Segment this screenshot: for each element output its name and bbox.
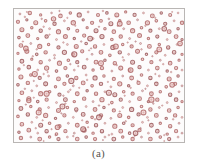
particle: [181, 101, 183, 103]
particle: [147, 69, 149, 71]
particle: [85, 42, 88, 45]
particle: [125, 121, 127, 123]
particle: [23, 64, 24, 65]
particle: [94, 119, 96, 121]
particle: [67, 122, 69, 124]
particle: [59, 10, 60, 11]
particle: [110, 86, 112, 88]
particle: [164, 134, 165, 135]
particle: [165, 86, 168, 89]
particle-core: [27, 114, 28, 115]
particle-core: [73, 53, 75, 55]
particle: [91, 85, 94, 88]
particle-core: [40, 61, 41, 62]
particle: [123, 28, 125, 30]
particle: [18, 36, 21, 39]
particle-core: [82, 114, 84, 116]
particle: [73, 100, 75, 102]
particle-scatter-plot: [14, 9, 184, 142]
particle: [61, 113, 62, 114]
particle: [87, 127, 88, 128]
particle: [181, 116, 183, 118]
particle: [155, 20, 158, 23]
particle: [78, 65, 79, 66]
particle-core: [60, 15, 62, 17]
particle: [107, 81, 108, 82]
particle: [65, 103, 67, 105]
particle: [141, 49, 143, 51]
particle-core: [53, 18, 55, 20]
particle: [37, 69, 39, 71]
particle-core: [94, 77, 96, 79]
particle-core: [158, 48, 160, 50]
particle: [111, 133, 113, 135]
particle: [24, 88, 26, 90]
particle: [122, 90, 125, 93]
particle: [36, 85, 38, 87]
particle: [98, 105, 100, 107]
particle-core: [181, 22, 182, 23]
particle-core: [17, 21, 18, 22]
particle-core: [114, 94, 116, 96]
particle-core: [61, 106, 63, 108]
particle: [33, 80, 34, 81]
particle-core: [138, 114, 139, 115]
particle: [170, 71, 172, 73]
particle: [36, 49, 38, 51]
particle-core: [46, 67, 48, 69]
particle: [54, 117, 56, 119]
particle: [122, 136, 124, 138]
particle-core: [27, 82, 28, 83]
particle-core: [130, 69, 132, 71]
particle: [153, 103, 155, 105]
particle-core: [175, 36, 177, 38]
particle: [18, 68, 20, 70]
particle-core: [21, 123, 23, 125]
particle-core: [34, 73, 36, 75]
particle: [141, 121, 143, 123]
particle: [76, 29, 79, 32]
particle-core: [150, 99, 152, 101]
particle-core: [120, 99, 121, 100]
particle: [43, 26, 45, 28]
particle-core: [168, 78, 170, 80]
particle-core: [46, 93, 48, 95]
particle: [56, 39, 58, 41]
particle-core: [64, 83, 65, 84]
particle: [124, 95, 125, 96]
particle: [86, 90, 88, 92]
particle: [173, 20, 175, 22]
particle-core: [58, 78, 60, 80]
particle: [26, 19, 28, 21]
particle: [25, 104, 26, 105]
particle: [92, 69, 94, 71]
particle: [86, 79, 88, 81]
particle-core: [64, 51, 66, 53]
particle-core: [76, 138, 78, 140]
particle: [141, 90, 143, 92]
particle-core: [119, 115, 121, 117]
particle-core: [39, 46, 41, 48]
particle: [82, 19, 84, 21]
particle-core: [157, 130, 159, 132]
particle-core: [58, 110, 60, 112]
particle-core: [101, 130, 102, 131]
particle-core: [72, 22, 74, 24]
particle: [86, 58, 88, 60]
particle: [54, 54, 56, 56]
particle: [148, 120, 149, 121]
particle: [130, 87, 132, 89]
particle: [169, 13, 172, 16]
particle-core: [179, 43, 181, 45]
particle-core: [156, 52, 157, 53]
particle: [67, 91, 69, 93]
particle: [31, 58, 33, 60]
particle-core: [46, 130, 47, 131]
particle: [79, 87, 80, 88]
particle: [181, 53, 183, 55]
particle-core: [27, 35, 29, 37]
particle: [63, 20, 65, 22]
particle-core: [150, 30, 151, 31]
particle: [103, 106, 105, 108]
particle: [122, 107, 124, 109]
